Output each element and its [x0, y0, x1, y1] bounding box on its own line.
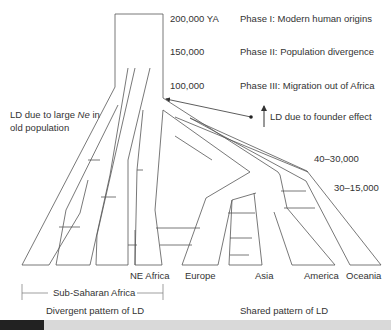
- phase-3-label: Phase III: Migration out of Africa: [240, 80, 375, 91]
- ne-italic: Ne: [78, 109, 90, 120]
- population-america: America: [304, 270, 339, 281]
- population-ne-africa: NE Africa: [130, 270, 170, 281]
- large-ne-text-pre: LD due to large: [10, 109, 78, 120]
- root-trunk: [115, 14, 163, 98]
- time-label-100000: 100,000: [170, 80, 204, 91]
- large-ne-text-post: in: [90, 109, 100, 120]
- sub-saharan-africa-label: Sub-Saharan Africa: [53, 287, 135, 298]
- divergent-ld-label: Divergent pattern of LD: [46, 305, 144, 316]
- phase-1-label: Phase I: Modern human origins: [240, 13, 372, 24]
- shared-ld-label: Shared pattern of LD: [240, 305, 328, 316]
- population-europe: Europe: [185, 270, 216, 281]
- large-ne-annotation: LD due to large Ne in old population: [10, 108, 100, 134]
- time-label-150000: 150,000: [170, 46, 204, 57]
- time-label-200000: 200,000 YA: [170, 13, 219, 24]
- founder-effect-dot: [249, 115, 253, 119]
- population-oceania: Oceania: [346, 270, 381, 281]
- population-asia: Asia: [255, 270, 273, 281]
- large-ne-text-line2: old population: [10, 122, 69, 133]
- bottom-bar: [0, 320, 391, 330]
- founder-effect-label: LD due to founder effect: [270, 111, 372, 122]
- time-label-40-30000: 40–30,000: [314, 153, 359, 164]
- phase-2-label: Phase II: Population divergence: [240, 46, 374, 57]
- time-label-30-15000: 30–15,000: [334, 182, 379, 193]
- bottom-bar-dark-segment: [0, 320, 44, 330]
